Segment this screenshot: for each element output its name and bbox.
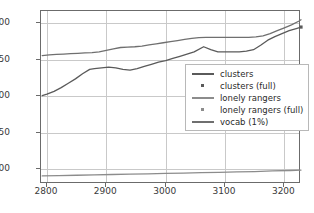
y-tick-mark: [36, 59, 40, 60]
x-tick-mark: [224, 183, 225, 187]
series-line-vocab-1-: [42, 20, 301, 56]
legend-item: lonely rangers (full): [190, 104, 303, 115]
y-tick-label: 200: [0, 90, 10, 100]
y-tick-mark: [36, 22, 40, 23]
x-tick-mark: [283, 183, 284, 187]
series-line-lonely-rangers: [42, 170, 301, 176]
y-tick-mark: [36, 95, 40, 96]
y-tick-label: 250: [0, 54, 10, 64]
x-tick-label: 3100: [213, 186, 236, 196]
x-tick-label: 2800: [34, 186, 57, 196]
legend-item-label: vocab (1%): [216, 117, 268, 127]
y-tick-mark: [36, 168, 40, 169]
y-tick-mark: [36, 132, 40, 133]
legend-item: vocab (1%): [190, 116, 303, 127]
legend-item-label: clusters: [216, 69, 253, 79]
chart-figure: clustersclusters (full)lonely rangerslon…: [0, 0, 314, 213]
legend-item-label: lonely rangers: [216, 93, 281, 103]
series-marker-clusters-full-: [299, 25, 302, 28]
x-tick-mark: [105, 183, 106, 187]
legend-item: lonely rangers: [190, 92, 303, 103]
legend-line-icon: [190, 92, 216, 103]
x-tick-label: 2900: [94, 186, 117, 196]
y-tick-label: 300: [0, 17, 10, 27]
chart-legend: clustersclusters (full)lonely rangerslon…: [185, 64, 309, 131]
legend-square-icon: [190, 80, 216, 91]
legend-square-icon: [190, 104, 216, 115]
y-tick-label: 100: [0, 163, 10, 173]
x-tick-mark: [46, 183, 47, 187]
legend-item: clusters (full): [190, 80, 303, 91]
y-tick-label: 150: [0, 127, 10, 137]
legend-item: clusters: [190, 68, 303, 79]
legend-item-label: clusters (full): [216, 81, 276, 91]
legend-line-icon: [190, 116, 216, 127]
x-tick-mark: [165, 183, 166, 187]
x-tick-label: 3000: [153, 186, 176, 196]
legend-line-icon: [190, 68, 216, 79]
legend-item-label: lonely rangers (full): [216, 105, 303, 115]
x-tick-label: 3200: [272, 186, 295, 196]
